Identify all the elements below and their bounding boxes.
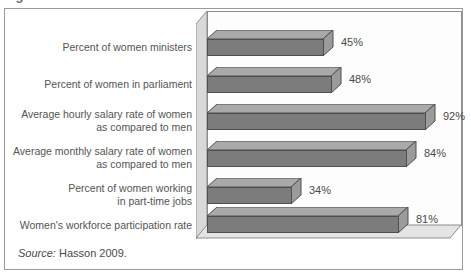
bar-side-face (331, 67, 341, 94)
bar-value-label: 45% (341, 36, 363, 48)
category-label: Percent of women in parliament (6, 78, 192, 91)
bar-value-label: 92% (443, 110, 465, 122)
bar-front-face (207, 39, 324, 56)
source-label: Source: (18, 247, 56, 259)
bar-front-face (207, 76, 332, 93)
bar-side-face (425, 104, 435, 131)
bar-front-face (207, 113, 426, 130)
figure-box: Percent of women ministers Percent of wo… (4, 8, 463, 270)
category-label: Percent of women working in part-time jo… (6, 182, 192, 207)
figure-caption-text: Figure (4, 0, 44, 3)
bar-value-label: 84% (424, 147, 446, 159)
bar-chart: Percent of women ministers Percent of wo… (5, 9, 464, 241)
category-label: Percent of women ministers (6, 41, 192, 54)
category-label: Average monthly salary rate of women as … (6, 145, 192, 170)
bar-value-label: 81% (416, 213, 438, 225)
bar-side-face (323, 30, 333, 57)
bar-front-face (207, 150, 407, 167)
bar[interactable]: 92% (207, 104, 426, 121)
source-note: Source: Hasson 2009. (18, 247, 127, 259)
category-label: Average hourly salary rate of women as c… (6, 108, 192, 133)
bar[interactable]: 84% (207, 141, 407, 158)
bar-side-face (291, 178, 301, 205)
bar-value-label: 34% (309, 184, 331, 196)
bar-front-face (207, 216, 399, 233)
bar-side-face (398, 207, 408, 234)
bar-value-label: 48% (349, 73, 371, 85)
plot-area: 45% 48% (196, 11, 462, 239)
category-label: Women's workforce participation rate (6, 219, 192, 232)
source-text: Hasson 2009. (59, 247, 127, 259)
bar-side-face (406, 141, 416, 168)
category-label-column: Percent of women ministers Percent of wo… (5, 9, 196, 241)
bar-series: 45% 48% (196, 11, 462, 239)
bar[interactable]: 34% (207, 178, 292, 195)
bar[interactable]: 45% (207, 30, 324, 47)
bar-front-face (207, 187, 292, 204)
bar[interactable]: 81% (207, 207, 399, 224)
bar[interactable]: 48% (207, 67, 332, 84)
figure-caption-sliver: Figure (0, 0, 471, 7)
